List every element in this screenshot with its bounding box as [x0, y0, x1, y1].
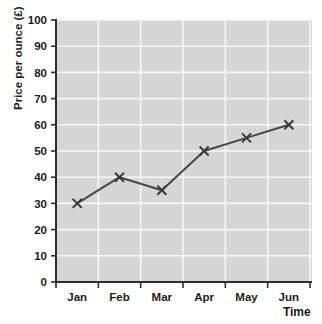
price-per-ounce-line-chart: 0102030405060708090100JanFebMarAprMayJun… [0, 0, 322, 324]
x-tick-label: Jan [67, 291, 87, 303]
x-tick-label: Apr [194, 291, 214, 303]
x-tick-label: Feb [109, 291, 129, 303]
y-tick-label: 0 [41, 276, 47, 288]
y-tick-label: 90 [34, 40, 47, 52]
y-tick-label: 70 [34, 93, 47, 105]
y-tick-label: 30 [34, 198, 47, 210]
x-axis-title: Time [283, 305, 311, 319]
y-tick-label: 60 [34, 119, 47, 131]
y-tick-label: 40 [34, 171, 47, 183]
y-tick-label: 20 [34, 224, 47, 236]
x-tick-label: Mar [152, 291, 173, 303]
y-tick-label: 50 [34, 145, 47, 157]
y-axis-title: Price per ounce (£) [12, 6, 24, 110]
y-tick-label: 100 [28, 14, 47, 26]
y-tick-label: 10 [34, 250, 47, 262]
y-tick-label: 80 [34, 67, 47, 79]
chart-canvas: 0102030405060708090100JanFebMarAprMayJun… [0, 0, 322, 324]
x-tick-label: May [235, 291, 258, 303]
x-tick-label: Jun [279, 291, 299, 303]
